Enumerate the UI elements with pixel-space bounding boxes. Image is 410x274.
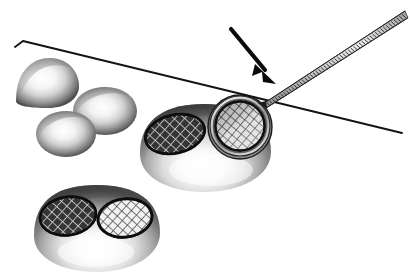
plain-dome-lower-left: [36, 111, 96, 157]
meshed-dome-bottom: [34, 185, 160, 272]
figure-svg: [0, 0, 410, 274]
illustration-canvas: Probe contacting a meshed dome element p…: [0, 0, 410, 274]
